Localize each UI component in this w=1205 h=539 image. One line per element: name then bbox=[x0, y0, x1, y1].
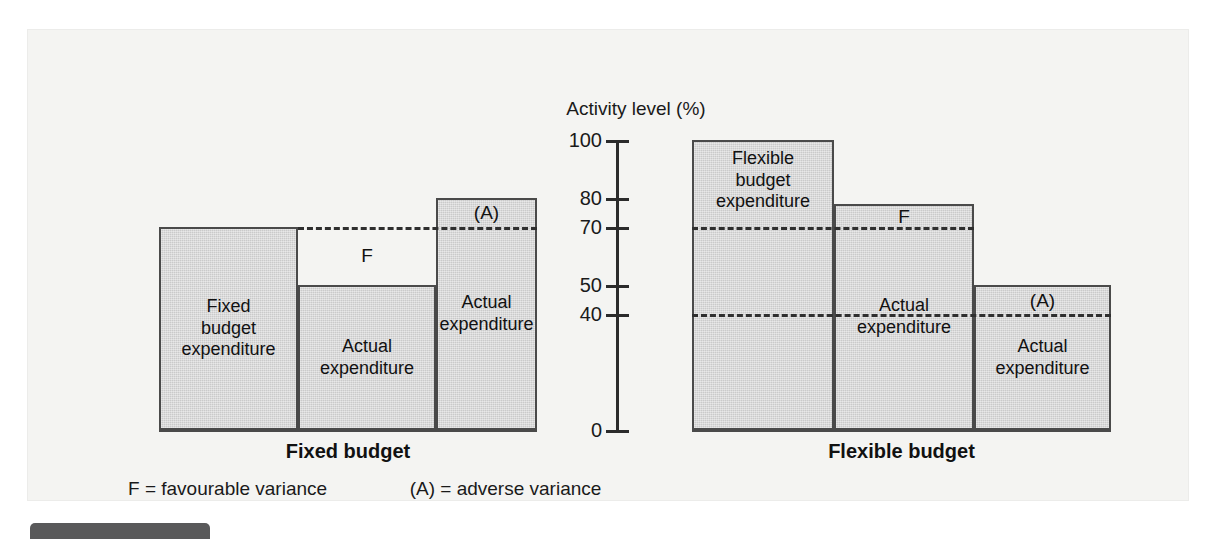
axis-tick-label-100: 100 bbox=[554, 129, 602, 152]
axis-tick-40 bbox=[606, 314, 629, 317]
axis-tick-100 bbox=[606, 140, 629, 143]
bar-label: Actual expenditure bbox=[991, 336, 1093, 379]
axis-title: Activity level (%) bbox=[526, 98, 746, 120]
bar-flexible-actual-expenditure[interactable]: Actual expenditure bbox=[834, 204, 974, 430]
bar-fixed-actual-expenditure-adverse[interactable]: Actual expenditure bbox=[436, 198, 537, 430]
axis-tick-label-40: 40 bbox=[554, 303, 602, 326]
bar-label: Fixed budget expenditure bbox=[177, 296, 279, 361]
figure-plate: Activity level (%) 100 80 70 50 40 0 bbox=[28, 30, 1188, 500]
bar-label: Actual expenditure bbox=[435, 292, 537, 335]
axis-line bbox=[616, 140, 619, 430]
legend: F = favourable variance (A) = adverse va… bbox=[128, 478, 601, 500]
axis-tick-0 bbox=[606, 430, 629, 433]
chart-fixed-caption: Fixed budget bbox=[159, 440, 537, 463]
legend-item-adverse: (A) = adverse variance bbox=[410, 478, 602, 500]
variance-mark-favourable: F bbox=[298, 245, 436, 267]
axis-tick-70 bbox=[606, 227, 629, 230]
axis-tick-label-0: 0 bbox=[554, 419, 602, 442]
reference-line-70 bbox=[298, 227, 537, 230]
variance-mark-favourable: F bbox=[834, 206, 974, 228]
bar-label: Actual expenditure bbox=[853, 295, 955, 338]
axis-tick-50 bbox=[606, 285, 629, 288]
bar-fixed-budget-expenditure[interactable]: Fixed budget expenditure bbox=[159, 227, 298, 430]
axis-tick-80 bbox=[606, 198, 629, 201]
legend-item-favourable: F = favourable variance bbox=[128, 478, 327, 500]
bar-flexible-budget-expenditure[interactable]: Flexible budget expenditure bbox=[692, 140, 834, 430]
caption-bar bbox=[30, 523, 210, 539]
bar-label: Actual expenditure bbox=[316, 336, 418, 379]
reference-line-40 bbox=[692, 314, 1111, 317]
axis-tick-label-70: 70 bbox=[554, 216, 602, 239]
variance-mark-adverse: (A) bbox=[436, 202, 537, 224]
axis-tick-label-80: 80 bbox=[554, 187, 602, 210]
chart-fixed-baseline bbox=[159, 430, 537, 432]
chart-fixed-budget: Fixed budget expenditure Actual expendit… bbox=[159, 140, 537, 432]
bar-label: Flexible budget expenditure bbox=[712, 148, 814, 213]
chart-flexible-baseline bbox=[692, 430, 1111, 432]
axis-tick-label-50: 50 bbox=[554, 274, 602, 297]
variance-mark-adverse: (A) bbox=[974, 290, 1111, 312]
chart-flexible-budget: Flexible budget expenditure Actual expen… bbox=[692, 140, 1111, 432]
bar-fixed-actual-expenditure[interactable]: Actual expenditure bbox=[298, 285, 436, 430]
chart-flexible-caption: Flexible budget bbox=[692, 440, 1111, 463]
